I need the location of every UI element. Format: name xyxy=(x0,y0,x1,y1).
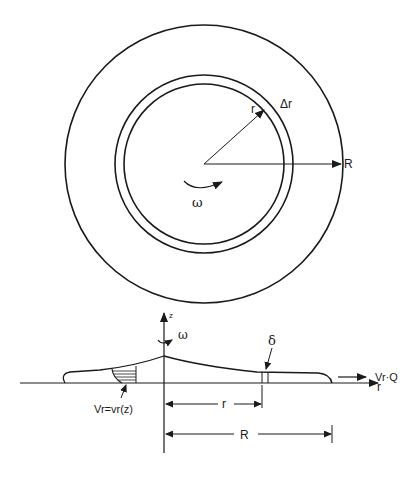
label-velocity-profile: Vr=vr(z) xyxy=(94,403,133,415)
label-R-top: R xyxy=(344,157,353,171)
rotating-disk-diagram: r Δr R ω z ω r Vr=vr(z) δ xyxy=(0,0,418,477)
velocity-profile xyxy=(112,366,136,383)
velocity-profile-pointer xyxy=(121,385,126,398)
radius-r-arrow xyxy=(204,110,264,164)
label-dim-R: R xyxy=(240,428,249,442)
top-view: r Δr R ω xyxy=(65,25,353,303)
label-exit-flow: Vr·Q xyxy=(375,371,398,383)
film-profile xyxy=(63,356,332,383)
label-r-top: r xyxy=(251,102,255,116)
label-omega-top: ω xyxy=(192,195,203,210)
label-delta-r: Δr xyxy=(280,97,292,111)
label-delta: δ xyxy=(268,333,276,348)
label-dim-r: r xyxy=(222,397,226,411)
label-omega-side: ω xyxy=(178,328,188,342)
label-z: z xyxy=(169,311,173,320)
delta-pointer xyxy=(266,348,272,369)
z-rotation-arrow-icon xyxy=(158,340,172,343)
rotation-arrow-icon xyxy=(184,181,222,188)
side-view: z ω r Vr=vr(z) δ Vr·Q r xyxy=(20,311,398,453)
